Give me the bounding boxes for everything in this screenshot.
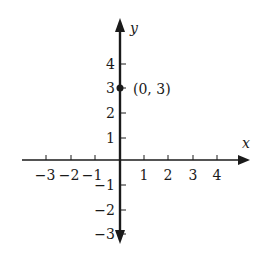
x-tick-label: 4 [213,167,222,183]
y-tick-label: 3 [106,80,115,96]
y-tick-labels: 4 3 2 1 −1 −2 −3 [94,56,115,242]
y-axis-arrow-down-icon [115,230,125,244]
y-tick-label: 4 [106,56,115,72]
y-tick-label: −1 [94,177,115,193]
x-tick-label: −3 [35,167,56,183]
x-tick-label: −2 [59,167,80,183]
x-tick-label: 3 [189,167,198,183]
x-axis-arrow-icon [238,155,250,165]
y-tick-label: −2 [94,202,115,218]
y-tick-label: 1 [106,130,115,146]
y-axis-arrow-up-icon [115,18,125,32]
coordinate-plane: −3 −2 −1 1 2 3 4 4 3 2 1 −1 −2 −3 y x (0… [0,0,258,258]
point-label: (0, 3) [133,81,171,97]
x-tick-label: 2 [164,167,173,183]
y-axis-label: y [129,20,139,36]
data-point [117,85,124,92]
x-tick-label: 1 [140,167,149,183]
x-axis-label: x [242,135,250,151]
y-tick-label: 2 [106,105,115,121]
x-tick-labels: −3 −2 −1 1 2 3 4 [35,167,222,183]
y-tick-label: −3 [94,226,115,242]
